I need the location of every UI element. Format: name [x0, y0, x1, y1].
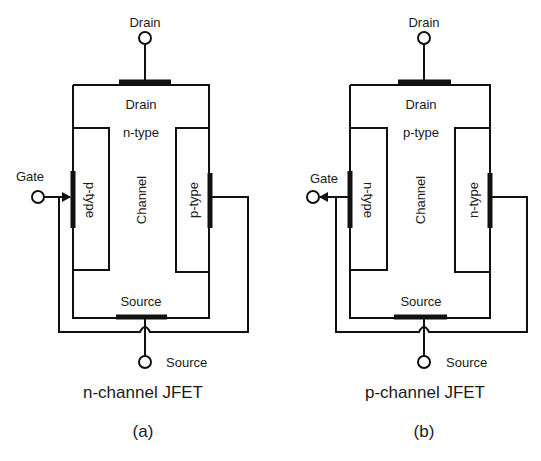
- gate-terminal-label: Gate: [310, 171, 338, 186]
- drain-terminal-icon: [139, 32, 151, 44]
- panel-n-channel-jfet: Drain Drain n-type Channel p-type p-type…: [16, 15, 248, 441]
- gate-terminal-label: Gate: [16, 169, 44, 184]
- panel-caption: p-channel JFET: [365, 383, 485, 402]
- source-region-label: Source: [120, 294, 161, 309]
- channel-type-label: n-type: [123, 125, 159, 140]
- drain-region-label: Drain: [125, 97, 156, 112]
- right-gate-type-label: n-type: [466, 182, 481, 218]
- left-gate-type-label: n-type: [361, 182, 376, 218]
- right-gate-type-label: p-type: [186, 182, 201, 218]
- drain-terminal-icon: [418, 32, 430, 44]
- source-terminal-icon: [139, 356, 151, 368]
- panel-caption: n-channel JFET: [83, 383, 203, 402]
- channel-type-label: p-type: [403, 125, 439, 140]
- channel-label: Channel: [134, 176, 149, 225]
- gate-terminal-icon: [32, 191, 44, 203]
- panel-p-channel-jfet: Drain Drain p-type Channel n-type n-type…: [307, 15, 527, 441]
- channel-label: Channel: [413, 176, 428, 225]
- gate-terminal-icon: [307, 191, 319, 203]
- source-terminal-icon: [418, 356, 430, 368]
- source-terminal-label: Source: [166, 355, 207, 370]
- panel-sublabel: (b): [414, 422, 435, 441]
- left-gate-type-label: p-type: [83, 182, 98, 218]
- drain-terminal-label: Drain: [408, 15, 439, 30]
- drain-terminal-label: Drain: [129, 15, 160, 30]
- source-region-label: Source: [400, 294, 441, 309]
- source-terminal-label: Source: [446, 355, 487, 370]
- drain-region-label: Drain: [405, 97, 436, 112]
- panel-sublabel: (a): [133, 422, 154, 441]
- jfet-diagram: Drain Drain n-type Channel p-type p-type…: [0, 0, 541, 461]
